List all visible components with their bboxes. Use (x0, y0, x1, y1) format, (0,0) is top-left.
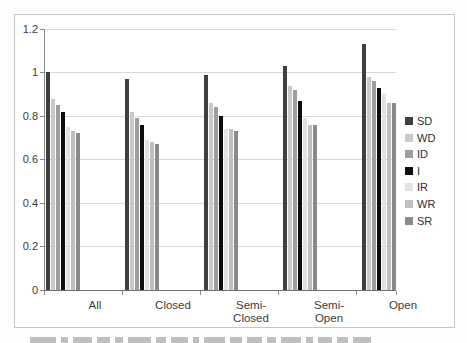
caption-text-smudge (30, 337, 56, 343)
x-category-label: All (60, 299, 130, 312)
legend-swatch-wr (405, 200, 413, 208)
legend-swatch-wd (405, 134, 413, 142)
bar-sr-1 (155, 144, 159, 290)
legend-label: WD (417, 132, 435, 144)
caption-text-smudge (353, 337, 371, 343)
bar-wr-1 (150, 142, 154, 290)
caption-text-smudge (318, 337, 332, 343)
y-axis-tick (40, 72, 44, 73)
caption-text-smudge (306, 337, 313, 343)
y-axis-tick (40, 159, 44, 160)
bar-ir-3 (303, 118, 307, 290)
caption-text-smudge (281, 337, 301, 343)
bar-wd-4 (367, 77, 371, 290)
x-axis-line (44, 290, 396, 291)
bar-wr-3 (308, 125, 312, 290)
caption-text-smudge (230, 337, 242, 343)
gridline (44, 72, 396, 73)
bar-i-3 (298, 101, 302, 290)
bar-id-1 (135, 118, 139, 290)
legend-label: WR (417, 198, 435, 210)
legend-swatch-ir (405, 183, 413, 191)
bar-i-1 (140, 125, 144, 290)
x-category-label: Open (368, 299, 438, 312)
x-category-label: Semi- Closed (216, 299, 286, 325)
x-category-label: Closed (138, 299, 208, 312)
bar-id-0 (56, 105, 60, 290)
bar-wr-2 (229, 129, 233, 290)
screenshot-root: { "chart_data": { "type": "bar", "title"… (0, 0, 467, 343)
caption-text-smudge (171, 337, 188, 343)
caption-text-smudge (61, 337, 68, 343)
legend-swatch-sr (405, 217, 413, 225)
y-axis-tick (40, 290, 44, 291)
legend-item-ir: IR (405, 181, 449, 193)
caption-text-smudge (204, 337, 225, 343)
y-axis-tick (40, 29, 44, 30)
bar-ir-4 (382, 94, 386, 290)
bar-ir-0 (66, 127, 70, 290)
legend-item-id: ID (405, 148, 449, 160)
x-axis-tick (356, 291, 357, 295)
bar-id-3 (293, 90, 297, 290)
y-tick-label: 0.2 (12, 241, 38, 252)
legend-swatch-sd (405, 117, 413, 125)
x-axis-tick (122, 291, 123, 295)
y-axis-tick (40, 203, 44, 204)
x-axis-tick (396, 291, 397, 295)
bar-sd-3 (283, 66, 287, 290)
caption-text-smudge (193, 337, 199, 343)
bar-id-2 (214, 107, 218, 290)
legend-item-wr: WR (405, 198, 449, 210)
x-axis-tick (278, 291, 279, 295)
bar-sr-4 (392, 103, 396, 290)
bar-wd-3 (288, 86, 292, 290)
legend-label: IR (417, 181, 428, 193)
y-tick-label: 0.6 (12, 154, 38, 165)
caption-text-smudge (128, 337, 151, 343)
bar-sr-3 (313, 125, 317, 290)
caption-text-smudge (156, 337, 166, 343)
y-axis-line (44, 29, 45, 290)
x-axis-tick (44, 291, 45, 295)
y-tick-label: 1 (12, 67, 38, 78)
y-axis-tick (40, 116, 44, 117)
bar-sd-1 (125, 79, 129, 290)
bar-id-4 (372, 81, 376, 290)
y-axis-tick (40, 246, 44, 247)
bar-i-4 (377, 88, 381, 290)
gridline (44, 29, 396, 30)
bar-i-2 (219, 116, 223, 290)
y-tick-label: 1.2 (12, 24, 38, 35)
caption-text-smudge (73, 337, 92, 343)
caption-text-smudge (267, 337, 276, 343)
legend-item-wd: WD (405, 132, 449, 144)
legend-label: ID (417, 148, 428, 160)
bar-ir-1 (145, 140, 149, 290)
bar-sd-4 (362, 44, 366, 290)
x-category-label: Semi- Open (294, 299, 364, 325)
legend-swatch-i (405, 167, 413, 175)
chart-frame: 00.20.40.60.811.2 AllClosedSemi- ClosedS… (14, 14, 455, 328)
y-tick-label: 0.8 (12, 111, 38, 122)
legend-item-sr: SR (405, 215, 449, 227)
cropped-caption-fragment (30, 337, 392, 343)
y-tick-label: 0 (12, 285, 38, 296)
caption-text-smudge (97, 337, 110, 343)
legend-item-sd: SD (405, 115, 449, 127)
bar-wd-2 (209, 103, 213, 290)
caption-text-smudge (337, 337, 348, 343)
legend-item-i: I (405, 165, 449, 177)
legend-label: I (417, 165, 420, 177)
bar-wr-4 (387, 103, 391, 290)
bar-sd-0 (46, 72, 50, 290)
bar-sr-0 (76, 133, 80, 290)
x-axis-tick (200, 291, 201, 295)
bar-wd-0 (51, 99, 55, 290)
bar-wd-1 (130, 112, 134, 290)
bar-i-0 (61, 112, 65, 290)
bar-ir-2 (224, 129, 228, 290)
caption-text-smudge (115, 337, 123, 343)
y-tick-label: 0.4 (12, 198, 38, 209)
legend-label: SD (417, 115, 432, 127)
